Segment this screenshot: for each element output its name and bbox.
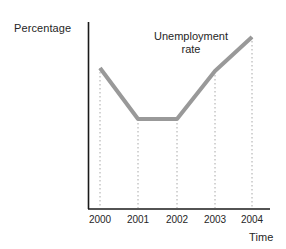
x-tick-label-2004: 2004 [232,214,272,225]
gridlines-vertical [100,37,252,208]
series-annotation-line-1: Unemployment [139,30,243,43]
x-tick-label-2001: 2001 [118,214,158,225]
x-tick-label-2003: 2003 [195,214,235,225]
series-annotation: Unemployment rate [139,30,243,56]
x-tick-label-2000: 2000 [80,214,120,225]
y-axis-title: Percentage [14,22,71,34]
line-chart: Percentage Time Unemployment rate 2000 2… [0,0,286,249]
series-annotation-line-2: rate [139,43,243,56]
x-axis-title: Time [249,231,273,243]
x-tick-label-2002: 2002 [157,214,197,225]
